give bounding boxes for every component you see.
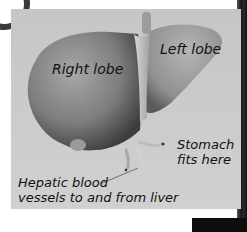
left-lobe-shape [145, 25, 222, 114]
stomach-label: Stomach fits here [177, 137, 234, 167]
stomach-label-line1: Stomach [177, 137, 234, 152]
hepatic-label-line2: vessels to and from liver [18, 190, 178, 205]
stomach-label-line2: fits here [177, 152, 234, 167]
hepatic-vessels-label: Hepatic blood vessels to and from liver [18, 175, 178, 205]
left-lobe-label: Left lobe [160, 42, 221, 57]
right-lobe-label: Right lobe [52, 62, 123, 77]
vena-cava-shape [142, 12, 151, 34]
hepatic-vessels [125, 142, 165, 171]
right-lobe-shape [28, 32, 142, 151]
hepatic-label-line1: Hepatic blood [18, 175, 178, 190]
